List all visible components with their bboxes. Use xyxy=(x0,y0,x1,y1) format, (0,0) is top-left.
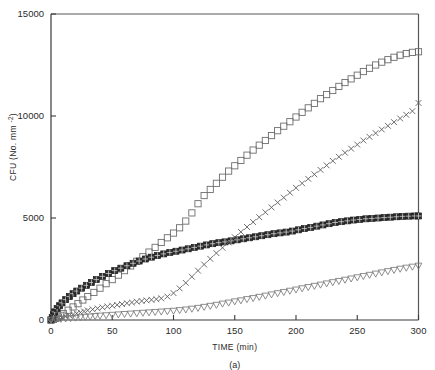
y-axis-title: CFU (No. mm -2) xyxy=(7,113,19,181)
chart-canvas: 050001000015000050100150200250300 TIME (… xyxy=(0,0,435,370)
y-tick-label: 5000 xyxy=(23,212,44,223)
x-tick-label: 100 xyxy=(166,325,182,336)
x-tick-label: 300 xyxy=(411,325,427,336)
series-cross xyxy=(48,100,421,323)
x-axis-title: TIME (min) xyxy=(212,342,257,352)
x-tick-label: 0 xyxy=(48,325,53,336)
y-tick-label: 10000 xyxy=(18,110,44,121)
series-filled-square xyxy=(48,213,422,323)
y-tick-label: 0 xyxy=(39,314,44,325)
y-tick-label: 15000 xyxy=(18,8,44,19)
x-tick-label: 50 xyxy=(107,325,118,336)
x-tick-label: 200 xyxy=(288,325,304,336)
panel-caption: (a) xyxy=(229,360,240,370)
series-open-triangle-down xyxy=(48,263,422,323)
x-tick-label: 150 xyxy=(227,325,243,336)
figure-panel: 050001000015000050100150200250300 TIME (… xyxy=(0,0,435,370)
data-series-group xyxy=(48,49,422,324)
x-tick-label: 250 xyxy=(349,325,365,336)
series-open-square xyxy=(48,49,422,323)
